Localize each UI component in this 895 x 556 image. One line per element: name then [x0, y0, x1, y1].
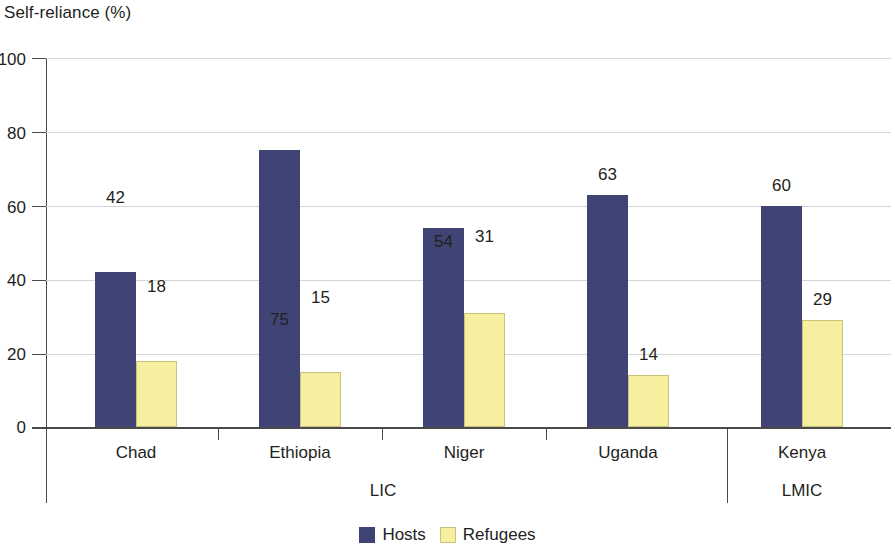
x-axis-label-ethiopia: Ethiopia [220, 443, 380, 463]
legend-label-hosts: Hosts [382, 525, 425, 545]
bar-value-chad-refugees: 18 [126, 277, 187, 297]
y-axis-tick-label-60: 60 [0, 198, 26, 218]
gridline-80 [46, 132, 891, 133]
y-axis-tick-mark-100 [32, 58, 46, 59]
y-axis-tick-label-20: 20 [0, 345, 26, 365]
x-axis-tick-chad-ethiopia [218, 428, 219, 440]
chart-legend: Hosts Refugees [0, 525, 895, 545]
bar-value-niger-refugees: 31 [454, 227, 515, 247]
group-label-lmic: LMIC [722, 481, 882, 501]
bar-niger-hosts[interactable] [423, 228, 464, 427]
y-axis-tick-label-40: 40 [0, 271, 26, 291]
y-axis-tick-mark-60 [32, 206, 46, 207]
legend-item-hosts[interactable]: Hosts [359, 525, 425, 545]
y-axis-tick-label-0: 0 [0, 418, 26, 438]
x-axis-tick-ethiopia-niger [382, 428, 383, 440]
x-axis-tick-niger-uganda [546, 428, 547, 440]
x-axis-label-niger: Niger [384, 443, 544, 463]
y-axis-tick-label-80: 80 [0, 124, 26, 144]
gridline-100 [46, 58, 891, 59]
x-axis-label-kenya: Kenya [722, 443, 882, 463]
bar-value-kenya-hosts: 60 [751, 176, 812, 196]
group-divider-left [46, 428, 47, 503]
bar-value-uganda-hosts: 63 [577, 165, 638, 185]
plot-area: 42 18 75 15 54 31 63 14 60 29 [46, 58, 891, 427]
legend-swatch-hosts-icon [359, 527, 375, 543]
y-axis-tick-mark-40 [32, 280, 46, 281]
bar-value-uganda-refugees: 14 [618, 345, 679, 365]
y-axis-tick-mark-20 [32, 354, 46, 355]
bar-kenya-hosts[interactable] [761, 206, 802, 427]
y-axis-tick-label-100: 100 [0, 50, 26, 70]
legend-label-refugees: Refugees [463, 525, 536, 545]
chart-title: Self-reliance (%) [4, 3, 131, 23]
bar-value-ethiopia-hosts: 75 [249, 310, 310, 330]
bar-uganda-hosts[interactable] [587, 195, 628, 427]
group-label-lic: LIC [303, 481, 463, 501]
bar-kenya-refugees[interactable] [802, 320, 843, 427]
x-axis-label-uganda: Uganda [548, 443, 708, 463]
x-axis-line [32, 427, 891, 429]
bar-chad-refugees[interactable] [136, 361, 177, 427]
x-axis-label-chad: Chad [56, 443, 216, 463]
bar-value-kenya-refugees: 29 [792, 290, 853, 310]
bar-niger-refugees[interactable] [464, 313, 505, 427]
bar-value-chad-hosts: 42 [85, 188, 146, 208]
chart-container: Self-reliance (%) 100 80 60 40 20 0 42 1… [0, 0, 895, 556]
y-axis-tick-mark-80 [32, 132, 46, 133]
bar-uganda-refugees[interactable] [628, 375, 669, 427]
legend-item-refugees[interactable]: Refugees [440, 525, 536, 545]
bar-ethiopia-refugees[interactable] [300, 372, 341, 427]
legend-swatch-refugees-icon [440, 527, 456, 543]
bar-value-ethiopia-refugees: 15 [290, 288, 351, 308]
